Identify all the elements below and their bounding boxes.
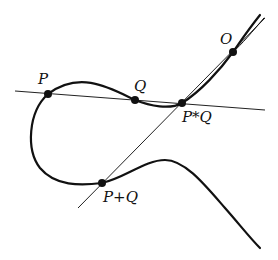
label-o: O bbox=[220, 32, 232, 47]
elliptic-curve-diagram: P Q P*Q O P+Q bbox=[0, 0, 278, 260]
label-p: P bbox=[38, 72, 48, 87]
point-pplusq bbox=[98, 179, 106, 187]
label-pstarq: P*Q bbox=[182, 110, 212, 125]
point-o bbox=[229, 48, 237, 56]
label-q: Q bbox=[134, 79, 146, 94]
curve-main-branch bbox=[31, 15, 260, 248]
label-pplusq: P+Q bbox=[103, 190, 138, 205]
point-p bbox=[44, 90, 52, 98]
diagram-svg bbox=[0, 0, 278, 260]
point-pstarq bbox=[178, 99, 186, 107]
point-q bbox=[131, 96, 139, 104]
